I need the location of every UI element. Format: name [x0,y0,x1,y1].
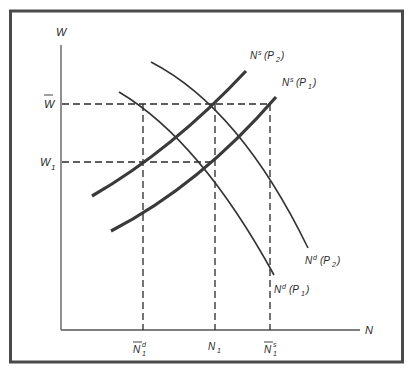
nd-p2-sub: 2 [331,261,336,268]
supply-p2-label: N s (P 2 ) [250,49,284,63]
nd-p1-sub: 1 [301,290,305,297]
nd-p1-paren: (P [289,284,299,295]
ns-p1-n: N [282,77,290,88]
w1-label: W 1 [40,156,55,172]
w1-subscript: 1 [51,163,55,172]
supply-curve-p2 [92,71,246,196]
x-axis-label: N [365,324,373,336]
ns-p2-paren: (P [264,50,274,61]
nd-p1-close: ) [305,284,309,295]
supply-curve-p1 [111,97,276,231]
w-bar-text: W [44,98,56,110]
nbar1d-sup: d [142,341,147,348]
ns-p2-n: N [250,50,258,61]
demand-p1-label: N d (P 1 ) [274,283,309,297]
ns-p2-sub: 2 [275,56,280,63]
nbar1s-sub: 1 [273,350,277,357]
nd-p2-paren: (P [320,255,330,266]
n1-sub: 1 [217,347,221,354]
nd-p2-close: ) [336,255,340,266]
ns-p1-close: ) [312,77,316,88]
ns-p2-sup: s [258,49,262,56]
figure-frame [11,11,403,362]
nd-p1-sup: d [282,283,287,290]
w-bar-label: W [44,95,56,110]
nbar1d-label: N 1 d [133,341,147,357]
nd-p1-n: N [274,284,282,295]
n1-label: N 1 [208,341,221,354]
ns-p2-close: ) [280,50,284,61]
nbar1s-label: N 1 s [264,341,277,357]
nd-p2-sup: d [313,254,318,261]
nbar1s-n: N [264,344,272,355]
nd-p2-n: N [305,255,313,266]
ns-p1-sub: 1 [308,83,312,90]
n1-n: N [208,341,216,352]
labor-market-diagram: W N W W 1 N s (P 2 ) N s (P 1 ) N d (P 2… [0,0,413,376]
supply-p1-label: N s (P 1 ) [282,76,316,90]
nbar1s-sup: s [273,341,277,348]
ns-p1-sup: s [290,76,294,83]
nbar1d-n: N [133,344,141,355]
ns-p1-paren: (P [296,77,306,88]
demand-p2-label: N d (P 2 ) [305,254,340,268]
y-axis-label: W [56,26,68,38]
nbar1d-sub: 1 [142,350,146,357]
